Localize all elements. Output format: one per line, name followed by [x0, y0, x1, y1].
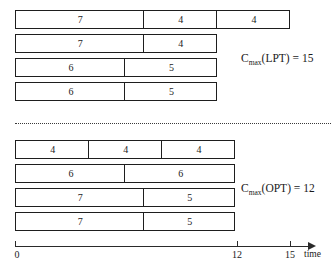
job-block: 5	[143, 213, 236, 230]
cmax-lpt-subscript: max	[249, 58, 262, 67]
machine-bar: 74	[15, 34, 217, 53]
job-block: 7	[16, 11, 144, 28]
cmax-lpt-value: (LPT) = 15	[262, 52, 314, 64]
job-block: 6	[124, 165, 236, 182]
schedule-separator	[15, 123, 331, 124]
cmax-opt-symbol: C	[241, 182, 249, 194]
cmax-lpt-symbol: C	[241, 52, 249, 64]
machine-bar: 75	[15, 188, 235, 207]
machine-bar: 65	[15, 82, 217, 101]
axis-tick-label: 15	[285, 250, 295, 260]
machine-bar: 66	[15, 164, 235, 183]
machine-bar: 744	[15, 10, 290, 29]
cmax-lpt-label: Cmax(LPT) = 15	[241, 53, 313, 65]
job-block: 6	[16, 59, 126, 76]
job-block: 5	[124, 59, 217, 76]
axis-tick	[290, 241, 291, 247]
axis-tick-label: 0	[15, 250, 20, 260]
job-block: 6	[16, 165, 126, 182]
job-block: 5	[124, 83, 217, 100]
job-block: 4	[161, 141, 236, 158]
job-block: 6	[16, 83, 126, 100]
job-block: 7	[16, 35, 144, 52]
job-block: 4	[143, 11, 218, 28]
machine-bar: 75	[15, 212, 235, 231]
job-block: 4	[16, 141, 89, 158]
machine-bar: 65	[15, 58, 217, 77]
axis-tick	[237, 241, 238, 247]
gantt-diagram: 744746565444667575 Cmax(LPT) = 15 Cmax(O…	[0, 0, 336, 274]
job-block: 4	[88, 141, 163, 158]
time-axis-label: time	[304, 250, 321, 260]
axis-tick	[15, 241, 16, 247]
axis-tick-label: 12	[232, 250, 242, 260]
job-block: 7	[16, 189, 144, 206]
cmax-opt-label: Cmax(OPT) = 12	[241, 183, 315, 195]
job-block: 4	[216, 11, 291, 28]
cmax-opt-value: (OPT) = 12	[262, 182, 315, 194]
job-block: 7	[16, 213, 144, 230]
time-axis-line	[15, 246, 313, 247]
cmax-opt-subscript: max	[249, 188, 262, 197]
machine-bar: 444	[15, 140, 235, 159]
job-block: 4	[143, 35, 218, 52]
job-block: 5	[143, 189, 236, 206]
